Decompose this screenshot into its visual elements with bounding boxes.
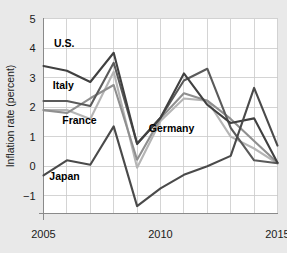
y-tick-label: 4 (29, 42, 35, 54)
inflation-rate-line-chart: −1012345200520102015Inflation rate (perc… (0, 0, 287, 253)
series-label-japan: Japan (49, 170, 79, 182)
x-tick-label: 2005 (31, 228, 55, 240)
x-tick-labels: 200520102015 (31, 228, 287, 240)
series-label-italy: Italy (53, 79, 74, 91)
series-label-germany: Germany (149, 122, 195, 134)
y-tick-label: 2 (29, 101, 35, 113)
series-label-france: France (62, 114, 97, 126)
chart-canvas: −1012345200520102015Inflation rate (perc… (0, 0, 287, 253)
y-tick-label: 1 (29, 131, 35, 143)
x-tick-label: 2015 (265, 228, 287, 240)
y-tick-label: 5 (29, 13, 35, 25)
x-tick-label: 2010 (148, 228, 172, 240)
y-tick-labels: −1012345 (23, 13, 36, 202)
y-tick-label: 0 (29, 160, 35, 172)
y-axis-title: Inflation rate (percent) (4, 65, 16, 168)
series-label-us: U.S. (54, 37, 75, 49)
y-tick-label: 3 (29, 72, 35, 84)
y-tick-label: −1 (23, 190, 36, 202)
